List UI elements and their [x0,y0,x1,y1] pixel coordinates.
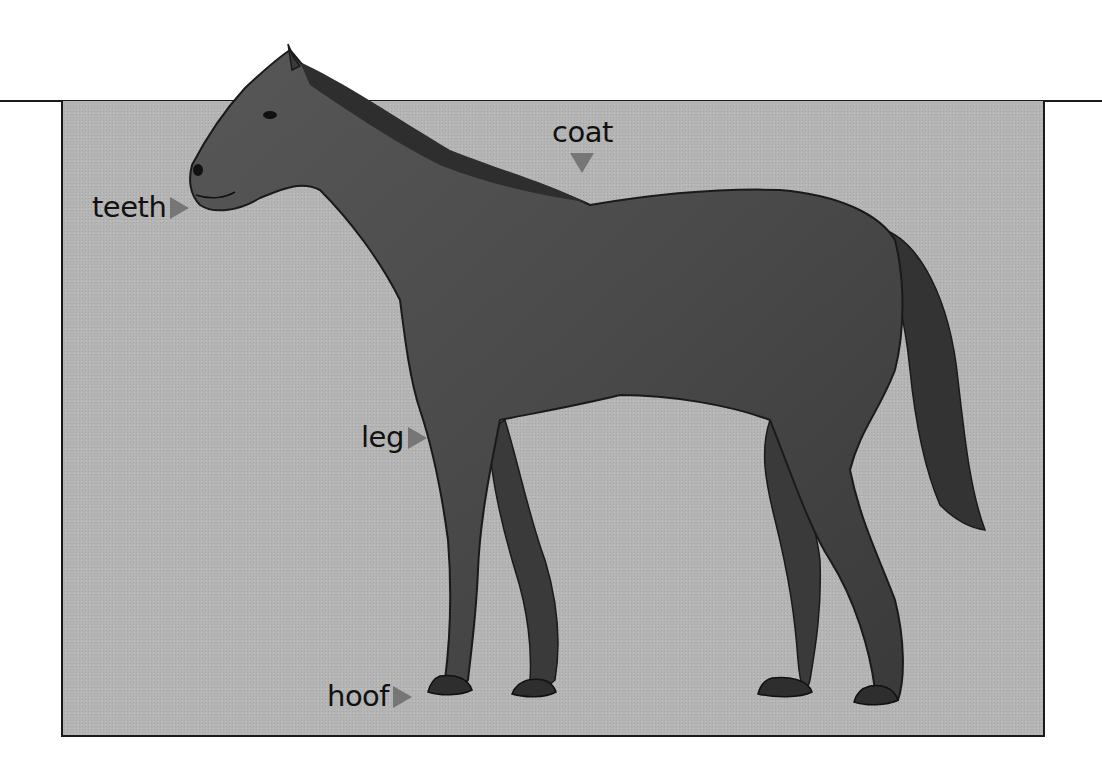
label-hoof-text: hoof [327,682,389,711]
label-coat: coat [552,118,613,173]
horse-nostril [193,164,203,176]
label-leg-text: leg [361,423,404,452]
horse-far-front-hoof [512,679,556,696]
label-coat-text: coat [552,118,613,147]
horse-far-front-leg [488,420,558,687]
label-teeth: teeth [92,193,189,222]
horse-eye [263,111,277,119]
arrow-right-icon [170,197,189,219]
label-leg: leg [361,423,427,452]
horse-illustration [0,0,1102,774]
arrow-right-icon [408,427,427,449]
label-hoof: hoof [327,682,412,711]
arrow-right-icon [393,686,412,708]
label-teeth-text: teeth [92,193,166,222]
arrow-down-icon [570,153,594,173]
